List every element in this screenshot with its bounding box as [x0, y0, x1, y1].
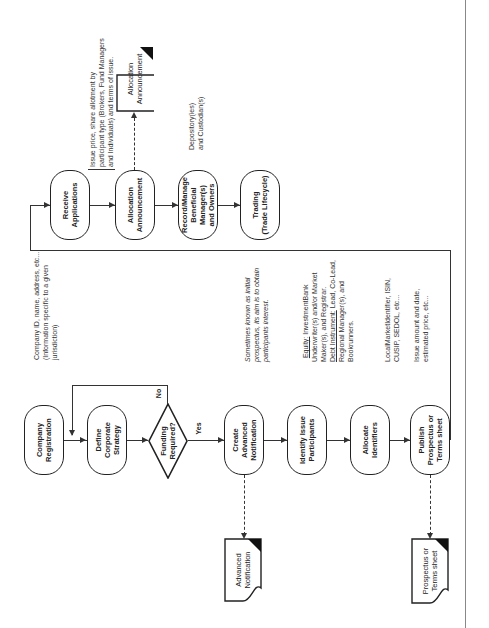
arrow-head-icon: [281, 437, 287, 443]
return-loop-connector: [30, 250, 451, 251]
no-loop-connector: [72, 385, 168, 386]
arrow-head-icon: [109, 202, 115, 208]
arrow-head-icon: [404, 437, 410, 443]
arrow-head-icon: [344, 437, 350, 443]
node-label: Allocation Announcement: [126, 178, 144, 233]
node-identify-issue-participants[interactable]: Identify Issue Participants: [287, 405, 327, 475]
dashed-connector: [430, 475, 431, 535]
node-trading[interactable]: Trading (Trade Lifecycle): [240, 170, 280, 240]
document-label: Advanced Notification: [234, 551, 252, 588]
arrow-head-icon: [172, 202, 178, 208]
node-label: Record/Manage Beneficial Manager(s) and …: [180, 177, 216, 233]
dashed-connector: [134, 118, 135, 170]
debt-label: Debt Instrument:: [329, 310, 336, 362]
node-publish-prospectus[interactable]: Publish Prospectus or Terms sheet: [410, 405, 450, 475]
document-label: Allocation Announcement: [126, 54, 144, 104]
arrow-head-icon: [234, 202, 240, 208]
node-allocation-announcement[interactable]: Allocation Announcement: [115, 170, 155, 240]
yes-label: Yes: [195, 422, 202, 434]
node-record-manage[interactable]: Record/Manage Beneficial Manager(s) and …: [178, 170, 218, 240]
document-prospectus-terms[interactable]: Prospectus or Terms sheet: [411, 538, 449, 604]
no-label: No: [155, 389, 162, 398]
node-create-advanced-notification[interactable]: Create Advanced Notification: [224, 405, 264, 475]
node-label: Define Corporate Strategy: [94, 422, 121, 458]
arrow-head-icon: [80, 437, 86, 443]
arrow-head-icon: [131, 112, 137, 118]
document-label: Prospectus or Terms sheet: [421, 548, 439, 594]
note-allocation-announcement: Issue price, share allotment by particip…: [88, 38, 115, 170]
node-label: Identify Issue Participants: [298, 416, 316, 464]
arrow-head-icon: [218, 437, 224, 443]
note-create-advanced-notification: Sometimes known as initial prospectus, i…: [243, 268, 270, 362]
return-loop-connector: [450, 250, 451, 440]
node-label: Receive Applications: [61, 182, 79, 227]
node-company-registration[interactable]: Company Registration: [24, 405, 64, 475]
node-define-corporate-strategy[interactable]: Define Corporate Strategy: [87, 405, 127, 475]
node-label: Create Advanced Notification: [231, 419, 258, 460]
no-loop-connector: [72, 385, 73, 435]
note-record-manage: Depository(ies) and Custodian(s): [187, 97, 205, 150]
dashed-connector: [244, 475, 245, 535]
note-identify-participants: Equity: InvestmentBank Underwriter(s) an…: [292, 260, 355, 362]
note-publish-prospectus: Issue amount and date, estimated price, …: [412, 289, 430, 362]
equity-label: Equity:: [302, 337, 309, 358]
arrow-head-icon: [69, 430, 75, 436]
node-label: Trading (Trade Lifecycle): [251, 175, 269, 234]
note-allocate-identifiers: LocalMarketIdentifier, ISIN, CUSIP, SEDO…: [383, 278, 401, 362]
node-label: Allocate Identifiers: [361, 422, 379, 458]
node-receive-applications[interactable]: Receive Applications: [50, 170, 90, 240]
return-loop-connector: [30, 205, 31, 251]
arrow-head-icon: [142, 437, 148, 443]
no-loop-connector: [167, 385, 168, 404]
decision-funding-required[interactable]: Funding Required?: [148, 403, 188, 479]
note-company-registration: Company ID, name, address, etc... (Infor…: [32, 252, 59, 360]
node-label: Company Registration: [35, 418, 53, 462]
node-label: Publish Prospectus or Terms sheet: [417, 415, 444, 465]
document-allocation-announcement[interactable]: Allocation Announcement: [116, 46, 154, 112]
node-allocate-identifiers[interactable]: Allocate Identifiers: [350, 405, 390, 475]
page-edge-line: [465, 0, 466, 628]
node-label: Funding Required?: [159, 422, 177, 459]
document-advanced-notification[interactable]: Advanced Notification: [224, 538, 262, 602]
